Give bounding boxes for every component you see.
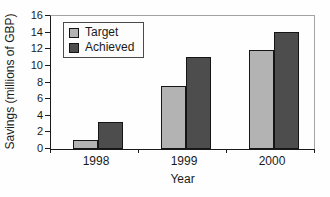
x-category-label-2000: 2000 <box>232 155 312 168</box>
legend-item-target: Target <box>69 26 138 39</box>
legend-item-achieved: Achieved <box>69 41 138 54</box>
y-tick-label-14: 14 <box>15 26 43 38</box>
y-tick-label-12: 12 <box>15 42 43 54</box>
bar-achieved-2000 <box>274 32 299 149</box>
bar-target-2000 <box>249 50 274 149</box>
bar-target-1998 <box>73 140 98 149</box>
x-category-label-1999: 1999 <box>144 155 224 168</box>
x-tick-3 <box>314 149 315 153</box>
x-axis-title: Year <box>50 173 315 186</box>
legend: Target Achieved <box>63 22 144 58</box>
legend-swatch-target <box>69 28 79 38</box>
bar-achieved-1999 <box>186 57 211 149</box>
legend-label-target: Target <box>85 26 118 39</box>
y-tick-6 <box>45 98 50 99</box>
y-tick-8 <box>45 82 50 83</box>
y-tick-10 <box>45 65 50 66</box>
y-tick-label-4: 4 <box>15 109 43 121</box>
chart-figure: Savings (millions of GBP) Target Achieve… <box>0 0 330 197</box>
y-tick-16 <box>45 15 50 16</box>
legend-swatch-achieved <box>69 43 79 53</box>
legend-label-achieved: Achieved <box>85 41 134 54</box>
y-tick-12 <box>45 48 50 49</box>
y-tick-2 <box>45 131 50 132</box>
y-tick-label-6: 6 <box>15 92 43 104</box>
y-tick-label-0: 0 <box>15 142 43 154</box>
y-tick-14 <box>45 32 50 33</box>
y-tick-4 <box>45 115 50 116</box>
x-tick-1 <box>138 149 139 153</box>
x-tick-2 <box>226 149 227 153</box>
bar-target-1999 <box>161 86 186 149</box>
y-tick-label-16: 16 <box>15 9 43 21</box>
y-tick-label-2: 2 <box>15 125 43 137</box>
y-tick-label-8: 8 <box>15 76 43 88</box>
plot-area: Target Achieved <box>50 15 315 150</box>
x-tick-0 <box>50 149 51 153</box>
x-category-label-1998: 1998 <box>56 155 136 168</box>
y-tick-label-10: 10 <box>15 59 43 71</box>
bar-achieved-1998 <box>98 122 123 149</box>
